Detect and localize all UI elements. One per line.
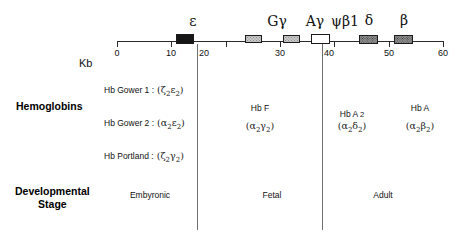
axis-unit-label: Kb (79, 58, 92, 69)
axis-tick-60 (443, 41, 444, 47)
hemoglobin-name-hb-f: Hb F (251, 104, 269, 113)
gene-box-psi-beta-1 (311, 34, 330, 44)
gene-label-delta: δ (365, 13, 373, 27)
hemoglobin-formula-gower-1: (ζ2ε2) (154, 84, 183, 95)
embryonic-fetal-divider (197, 44, 198, 230)
hemoglobin-name-hb-a: Hb A (411, 104, 429, 113)
axis-tick-label-30: 30 (275, 49, 285, 58)
axis-tick-label-50: 50 (384, 49, 394, 58)
hemoglobin-entry-gower-2: Hb Gower 2 : (α2ε2) (104, 113, 185, 131)
gene-label-epsilon: ε (189, 14, 196, 28)
gene-label-g-gamma: Gγ (267, 14, 287, 28)
hemoglobin-entry-gower-1: Hb Gower 1 : (ζ2ε2) (104, 80, 184, 98)
developmental-stage-adult: Adult (373, 191, 392, 200)
axis-tick-label-10: 10 (166, 49, 176, 58)
axis-tick-40 (334, 41, 335, 47)
row-heading-developmental-line1: Developmental (15, 185, 90, 197)
row-heading-hemoglobins: Hemoglobins (16, 100, 83, 113)
row-heading-developmental-stage: Developmental Stage (15, 185, 90, 211)
hemoglobin-formula-hb-f: (α2γ2) (246, 121, 274, 134)
developmental-stage-fetal: Fetal (263, 191, 282, 200)
gene-label-a-gamma: Aγ (306, 14, 324, 28)
hemoglobin-formula-gower-2: (α2ε2) (154, 117, 185, 128)
gene-label-beta: β (400, 13, 408, 27)
hemoglobin-name-gower-1: Hb Gower 1 : (104, 85, 154, 95)
axis-tick-label-0: 0 (114, 49, 119, 58)
hemoglobin-name-portland: Hb Portland : (104, 151, 154, 161)
hemoglobin-name-hb-a2: Hb A 2 (340, 104, 364, 120)
gene-label-psi-beta-1: ψβ1 (331, 14, 359, 28)
axis-tick-20 (226, 41, 227, 47)
globin-gene-cluster-figure: ε Gγ Aγ ψβ1 δ β 0 10 20 30 40 50 60 Kb H… (0, 0, 461, 233)
hemoglobin-entry-portland: Hb Portland : (ζ2γ2) (104, 146, 184, 164)
developmental-stage-embryonic: Embyronic (130, 191, 170, 200)
axis-tick-label-20: 20 (199, 49, 209, 58)
gene-box-beta (394, 35, 413, 44)
gene-box-g-gamma (245, 35, 262, 43)
fetal-adult-divider (322, 44, 323, 230)
axis-tick-label-40: 40 (324, 49, 334, 58)
hemoglobin-name-gower-2: Hb Gower 2 : (104, 118, 154, 128)
axis-tick-0 (117, 41, 118, 47)
row-heading-developmental-line2: Stage (38, 198, 67, 210)
axis-tick-10 (171, 41, 172, 47)
hemoglobin-formula-hb-a: (α2β2) (406, 121, 434, 134)
axis-tick-50 (389, 41, 390, 47)
gene-box-epsilon (176, 34, 194, 44)
axis-tick-30 (280, 41, 281, 47)
axis-tick-label-60: 60 (438, 49, 448, 58)
hemoglobin-formula-hb-a2: (α2δ2) (338, 121, 367, 134)
gene-box-delta (359, 35, 378, 44)
gene-box-a-gamma (283, 35, 300, 43)
hemoglobin-formula-portland: (ζ2γ2) (154, 150, 184, 161)
